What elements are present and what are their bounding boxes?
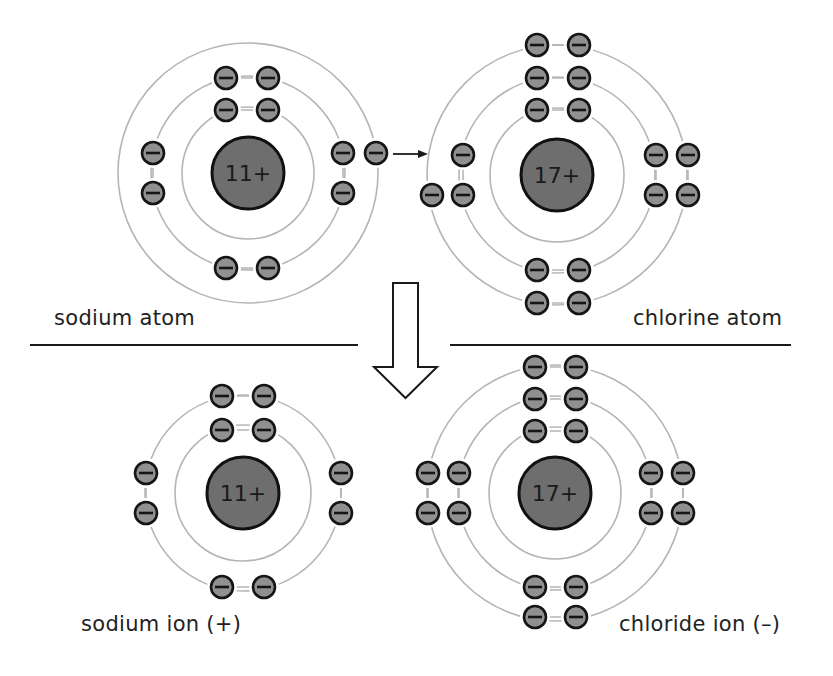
chloride-ion: 17+ [413, 352, 698, 632]
ionic-bond-diagram: 11+17+11+17+ [0, 0, 833, 676]
chloride-ion-label: chloride ion (–) [619, 612, 780, 636]
electron [444, 498, 474, 528]
electron [561, 352, 591, 382]
electron [207, 572, 237, 602]
electron [131, 458, 161, 488]
electron [636, 458, 666, 488]
electron [326, 458, 356, 488]
electron [636, 498, 666, 528]
electron [249, 381, 279, 411]
sodium-atom-label: sodium atom [54, 306, 195, 330]
electron [641, 140, 671, 170]
chlorine-atom: 17+ [417, 30, 703, 318]
electron [207, 415, 237, 445]
nucleus-charge-label: 11+ [225, 161, 271, 186]
electron [561, 602, 591, 632]
arrowhead-icon [418, 150, 428, 158]
electron [253, 253, 283, 283]
sodium-atom: 11+ [118, 43, 391, 303]
electron [668, 498, 698, 528]
electron [328, 178, 358, 208]
electron [448, 180, 478, 210]
nucleus-charge-label: 17+ [534, 163, 580, 188]
electron [522, 255, 552, 285]
electron [207, 381, 237, 411]
electron [564, 288, 594, 318]
electron [361, 138, 391, 168]
electron [444, 458, 474, 488]
electron [131, 498, 161, 528]
electron [520, 416, 550, 446]
electron [253, 63, 283, 93]
electron [522, 288, 552, 318]
electron [564, 95, 594, 125]
electron [253, 95, 283, 125]
electron [520, 384, 550, 414]
electron [211, 253, 241, 283]
electron [673, 140, 703, 170]
electron [138, 138, 168, 168]
chlorine-atom-label: chlorine atom [633, 306, 782, 330]
nucleus-charge-label: 17+ [532, 481, 578, 506]
electron [564, 30, 594, 60]
sodium-ion-label: sodium ion (+) [81, 612, 241, 636]
electron [522, 95, 552, 125]
nucleus-charge-label: 11+ [220, 481, 266, 506]
electron [561, 384, 591, 414]
electron [211, 95, 241, 125]
electron [561, 572, 591, 602]
electron [448, 140, 478, 170]
electron [138, 178, 168, 208]
electron [673, 180, 703, 210]
electron [249, 415, 279, 445]
sodium-ion: 11+ [131, 381, 356, 602]
electron [641, 180, 671, 210]
electron [668, 458, 698, 488]
electron [417, 180, 447, 210]
electron [211, 63, 241, 93]
electron [561, 416, 591, 446]
reaction-down-arrow-icon [374, 283, 437, 398]
electron [326, 498, 356, 528]
electron [413, 458, 443, 488]
electron [564, 255, 594, 285]
electron [249, 572, 279, 602]
electron [520, 572, 550, 602]
electron [522, 63, 552, 93]
electron [522, 30, 552, 60]
electron [413, 498, 443, 528]
electron [564, 63, 594, 93]
electron [520, 602, 550, 632]
electron [328, 138, 358, 168]
electron [520, 352, 550, 382]
